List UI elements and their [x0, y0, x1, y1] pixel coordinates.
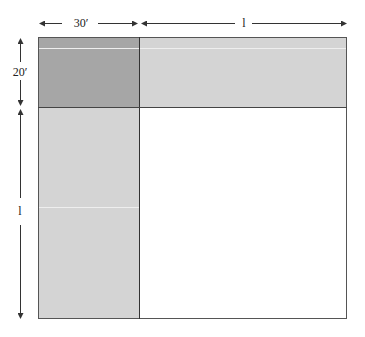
dimension-label-left-top: 20′ [6, 66, 34, 78]
dimension-label-left-bottom: l [14, 205, 26, 217]
diagram-lines [0, 0, 365, 337]
dimension-label-top-right: l [238, 17, 250, 29]
dimension-label-top-left: 30′ [66, 17, 96, 29]
